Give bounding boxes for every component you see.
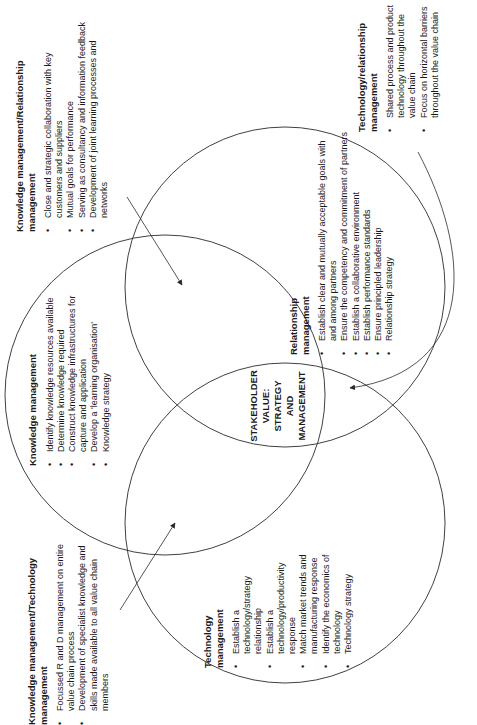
arrow-km-technology [120,523,175,610]
list-item: Serving as consultancy and information f… [77,12,88,232]
km-relationship-title: Knowledge management/Relationship manage… [14,12,37,232]
list-item: Establish a technology/strategy relation… [231,550,265,668]
arrow-km-relationship [127,197,182,285]
km-technology-title: Knowledge management/Technology manageme… [26,535,49,725]
list-item: Ensure principled leadership [373,125,384,355]
list-item: Ensure the competency and commitment of … [339,125,350,355]
list-item: Establish a collaborative environment [351,125,362,355]
list-item: Close and strategic collaboration with k… [43,12,65,232]
list-item: Shared process and product technology th… [385,4,419,132]
list-item: Establish performance standards [362,125,373,355]
knowledge-management-title: Knowledge management [27,286,39,466]
list-item: Focussed R and D management on entire va… [55,535,77,725]
center-label-line: MANAGEMENT [296,368,308,444]
center-label-line: VALUE: [260,368,272,444]
list-item: Develop a 'learning organisation' [89,286,100,466]
center-label-line: STAKEHOLDER [248,368,260,444]
relationship-management-title: Relationship management [288,293,311,355]
list-item: Technology strategy [343,550,354,668]
list-item: Relationship strategy [384,125,395,355]
technology-management-title: Technology management [202,606,225,668]
list-item: Knowledge strategy [101,286,112,466]
center-label: STAKEHOLDER VALUE: STRATEGY AND MANAGEME… [248,368,308,444]
technology-management-block: Technology management Establish a techno… [202,550,354,668]
technology-relationship-title: Technology/relationship management [356,4,379,132]
center-label-line: AND [284,368,296,444]
list-item: Identify knowledge resources available [45,286,56,466]
technology-relationship-block: Technology/relationship management Share… [356,4,441,132]
list-item: Identify the economics of technology [321,550,343,668]
list-item: Match market trends and manufacturing re… [298,550,320,668]
km-technology-block: Knowledge management/Technology manageme… [26,535,111,725]
km-relationship-block: Knowledge management/Relationship manage… [14,12,110,232]
list-item: Development of specialist knowledge and … [77,535,111,725]
list-item: Development of joint learning processes … [88,12,110,232]
list-item: Establish a technology/productivity resp… [265,550,299,668]
list-item: Determine knowledge required [56,286,67,466]
list-item: Construct knowledge infrastructures for … [67,286,89,466]
list-item: Mutual goals for performance [65,12,76,232]
knowledge-management-block: Knowledge management Identify knowledge … [27,286,112,466]
list-item: Focus on horizontal barriers throughout … [419,4,441,132]
list-item: Establish clear and mutually acceptable … [317,125,339,355]
center-label-line: STRATEGY [272,368,284,444]
relationship-management-block: Relationship management Establish clear … [288,125,395,355]
